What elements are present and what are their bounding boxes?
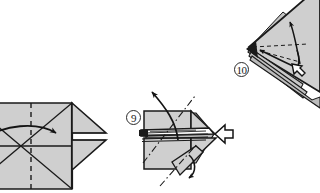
paper-upper-panel-step9 bbox=[144, 111, 191, 131]
origami-diagram-canvas bbox=[0, 0, 320, 193]
step-number-10: 10 bbox=[234, 62, 249, 77]
paper-flap-lower-left-figure bbox=[72, 140, 106, 170]
push-arrow-step9 bbox=[215, 125, 233, 143]
paper-slit-tip-step9 bbox=[139, 129, 148, 137]
step-8-figure bbox=[0, 103, 106, 189]
paper-flap-upper-left-figure bbox=[72, 103, 106, 133]
step-10-figure bbox=[246, 0, 320, 108]
paper-slit-left-figure bbox=[72, 133, 106, 140]
diagram-page: 9 10 bbox=[0, 0, 320, 193]
step-9-figure bbox=[139, 92, 233, 186]
step-number-9: 9 bbox=[126, 110, 141, 125]
